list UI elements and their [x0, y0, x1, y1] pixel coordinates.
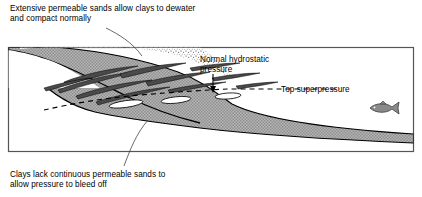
extensive-permeable-sands-note: Extensive permeable sands allow clays to… — [10, 4, 195, 24]
normal-hydrostatic-pressure-label: Normal hydrostatic pressure — [200, 55, 269, 75]
cross-section-canvas — [0, 0, 422, 197]
clays-lack-permeable-sands-note: Clays lack continuous permeable sands to… — [10, 170, 165, 190]
figure-root: Extensive permeable sands allow clays to… — [0, 0, 422, 197]
top-superpressure-label: Top superpressure — [281, 85, 350, 95]
